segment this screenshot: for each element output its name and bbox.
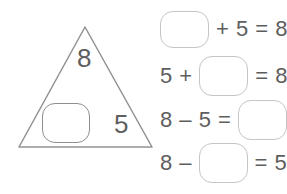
equation-4-answer-box[interactable] — [199, 143, 248, 183]
equation-3-text-before: 8 – 5 = — [160, 109, 231, 131]
equation-row-3: 8 – 5 = — [160, 98, 287, 142]
equation-row-4: 8 – = 5 — [160, 141, 287, 185]
equation-2-text-before: 5 + — [160, 65, 192, 87]
fact-triangle-outline — [0, 0, 160, 194]
equation-row-1: + 5 = 8 — [160, 7, 287, 51]
equation-row-2: 5 + = 8 — [160, 54, 287, 98]
equation-4-text-after: = 5 — [255, 152, 287, 174]
equation-1-text-after: + 5 = 8 — [216, 18, 287, 40]
triangle-answer-box[interactable] — [42, 103, 90, 143]
equation-2-answer-box[interactable] — [199, 56, 248, 96]
equation-4-text-before: 8 – — [160, 152, 192, 174]
equation-1-answer-box[interactable] — [160, 11, 209, 48]
triangle-top-number: 8 — [77, 45, 91, 71]
equation-3-answer-box[interactable] — [238, 100, 287, 140]
triangle-right-number: 5 — [114, 111, 128, 137]
fact-family-worksheet: 8 5 + 5 = 8 5 + = 8 8 – 5 = 8 – = 5 — [0, 0, 287, 194]
equation-2-text-after: = 8 — [255, 65, 287, 87]
